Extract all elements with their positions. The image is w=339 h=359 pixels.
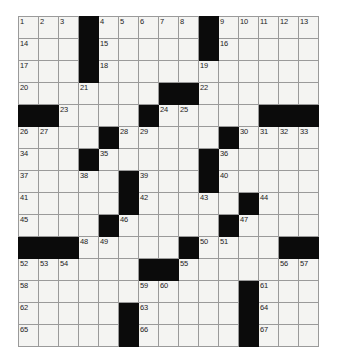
crossword-cell[interactable] [59,281,79,303]
crossword-cell[interactable] [279,215,299,237]
crossword-cell[interactable]: 56 [279,259,299,281]
crossword-cell[interactable] [79,303,99,325]
crossword-cell[interactable]: 57 [299,259,319,281]
crossword-cell[interactable] [59,127,79,149]
crossword-cell[interactable] [59,303,79,325]
crossword-cell[interactable]: 32 [279,127,299,149]
crossword-cell[interactable] [239,83,259,105]
crossword-cell[interactable] [239,237,259,259]
crossword-cell[interactable] [279,83,299,105]
crossword-cell[interactable] [279,171,299,193]
crossword-cell[interactable]: 21 [79,83,99,105]
crossword-cell[interactable] [299,149,319,171]
crossword-cell[interactable] [279,61,299,83]
crossword-cell[interactable]: 15 [99,39,119,61]
crossword-cell[interactable] [239,39,259,61]
crossword-cell[interactable] [299,171,319,193]
crossword-cell[interactable]: 9 [219,17,239,39]
crossword-cell[interactable]: 17 [19,61,39,83]
crossword-cell[interactable] [299,193,319,215]
crossword-cell[interactable]: 36 [219,149,239,171]
crossword-cell[interactable] [279,149,299,171]
crossword-cell[interactable] [39,39,59,61]
crossword-cell[interactable] [219,281,239,303]
crossword-cell[interactable] [159,39,179,61]
crossword-cell[interactable]: 42 [139,193,159,215]
crossword-cell[interactable] [239,61,259,83]
crossword-cell[interactable] [99,303,119,325]
crossword-cell[interactable] [39,193,59,215]
crossword-cell[interactable]: 14 [19,39,39,61]
crossword-cell[interactable] [279,303,299,325]
crossword-cell[interactable] [119,259,139,281]
crossword-cell[interactable]: 35 [99,149,119,171]
crossword-cell[interactable] [259,171,279,193]
crossword-cell[interactable] [99,105,119,127]
crossword-cell[interactable] [259,259,279,281]
crossword-cell[interactable]: 33 [299,127,319,149]
crossword-cell[interactable] [79,105,99,127]
crossword-cell[interactable] [279,193,299,215]
crossword-cell[interactable] [279,325,299,347]
crossword-cell[interactable]: 61 [259,281,279,303]
crossword-cell[interactable]: 13 [299,17,319,39]
crossword-cell[interactable] [159,127,179,149]
crossword-cell[interactable] [219,193,239,215]
crossword-cell[interactable] [219,303,239,325]
crossword-cell[interactable]: 3 [59,17,79,39]
crossword-cell[interactable]: 27 [39,127,59,149]
crossword-cell[interactable] [159,303,179,325]
crossword-cell[interactable] [279,281,299,303]
crossword-cell[interactable]: 38 [79,171,99,193]
crossword-cell[interactable] [119,105,139,127]
crossword-cell[interactable]: 4 [99,17,119,39]
crossword-cell[interactable]: 62 [19,303,39,325]
crossword-cell[interactable] [39,149,59,171]
crossword-cell[interactable] [179,39,199,61]
crossword-cell[interactable]: 10 [239,17,259,39]
crossword-cell[interactable] [279,39,299,61]
crossword-cell[interactable] [239,105,259,127]
crossword-cell[interactable] [179,61,199,83]
crossword-cell[interactable] [119,281,139,303]
crossword-cell[interactable] [199,281,219,303]
crossword-cell[interactable] [259,39,279,61]
crossword-cell[interactable] [39,281,59,303]
crossword-cell[interactable]: 20 [19,83,39,105]
crossword-cell[interactable] [139,237,159,259]
crossword-cell[interactable] [299,215,319,237]
crossword-cell[interactable]: 5 [119,17,139,39]
crossword-cell[interactable] [99,259,119,281]
crossword-cell[interactable]: 7 [159,17,179,39]
crossword-cell[interactable] [139,215,159,237]
crossword-cell[interactable] [119,237,139,259]
crossword-cell[interactable] [99,171,119,193]
crossword-cell[interactable] [219,325,239,347]
crossword-cell[interactable] [159,149,179,171]
crossword-cell[interactable] [299,325,319,347]
crossword-cell[interactable] [39,325,59,347]
crossword-cell[interactable] [179,303,199,325]
crossword-cell[interactable]: 28 [119,127,139,149]
crossword-cell[interactable] [39,215,59,237]
crossword-cell[interactable] [79,325,99,347]
crossword-cell[interactable] [139,149,159,171]
crossword-cell[interactable] [39,61,59,83]
crossword-cell[interactable] [259,83,279,105]
crossword-cell[interactable]: 46 [119,215,139,237]
crossword-cell[interactable]: 48 [79,237,99,259]
crossword-cell[interactable]: 53 [39,259,59,281]
crossword-cell[interactable]: 51 [219,237,239,259]
crossword-cell[interactable]: 6 [139,17,159,39]
crossword-cell[interactable] [259,149,279,171]
crossword-cell[interactable] [59,149,79,171]
crossword-cell[interactable]: 58 [19,281,39,303]
crossword-cell[interactable] [199,259,219,281]
crossword-cell[interactable] [39,303,59,325]
crossword-cell[interactable]: 44 [259,193,279,215]
crossword-cell[interactable]: 37 [19,171,39,193]
crossword-cell[interactable] [219,259,239,281]
crossword-cell[interactable] [239,171,259,193]
crossword-cell[interactable] [159,325,179,347]
crossword-cell[interactable] [219,61,239,83]
